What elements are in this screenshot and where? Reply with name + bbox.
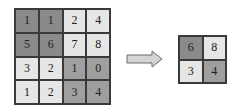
input-cell-r2c2: 1 (63, 57, 87, 81)
input-cell-r3c3: 4 (86, 80, 110, 104)
input-cell-r3c0: 1 (15, 80, 39, 104)
right-arrow-icon (126, 50, 164, 68)
output-cell-r0c0: 6 (179, 36, 203, 60)
input-cell-r1c2: 7 (63, 33, 87, 57)
input-cell-r3c2: 3 (63, 80, 87, 104)
input-cell-r1c1: 6 (39, 33, 63, 57)
input-matrix-4x4: 1 1 2 4 5 6 7 8 3 2 1 0 1 2 3 4 (14, 8, 111, 105)
input-cell-r0c0: 1 (15, 9, 39, 33)
input-cell-r2c3: 0 (86, 57, 110, 81)
input-cell-r0c3: 4 (86, 9, 110, 33)
input-cell-r2c1: 2 (39, 57, 63, 81)
input-cell-r1c0: 5 (15, 33, 39, 57)
output-cell-r1c1: 4 (203, 60, 227, 84)
input-cell-r2c0: 3 (15, 57, 39, 81)
input-cell-r3c1: 2 (39, 80, 63, 104)
input-cell-r1c3: 8 (86, 33, 110, 57)
output-matrix-2x2: 6 8 3 4 (178, 35, 227, 84)
output-cell-r0c1: 8 (203, 36, 227, 60)
input-cell-r0c2: 2 (63, 9, 87, 33)
output-cell-r1c0: 3 (179, 60, 203, 84)
input-cell-r0c1: 1 (39, 9, 63, 33)
